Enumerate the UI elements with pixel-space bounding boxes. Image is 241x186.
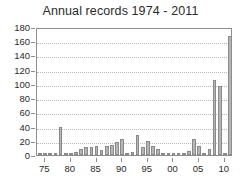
y-tick-mark-100 [31, 85, 35, 86]
y-tick-mark-120 [31, 71, 35, 72]
bar-2001 [177, 153, 181, 155]
bar-1979 [64, 153, 68, 155]
y-tick-mark-140 [31, 56, 35, 57]
bar-1977 [54, 153, 58, 155]
y-tick-mark-180 [31, 28, 35, 29]
bar-1984 [90, 147, 94, 155]
y-tick-mark-160 [31, 42, 35, 43]
chart-title: Annual records 1974 - 2011 [0, 4, 241, 18]
y-tick-label-140: 140 [14, 52, 30, 62]
bar-1987 [105, 146, 109, 155]
bar-1988 [110, 145, 114, 155]
bar-1994 [141, 147, 145, 155]
bar-2007 [208, 149, 212, 155]
y-tick-label-100: 100 [14, 80, 30, 90]
bar-1998 [161, 153, 165, 155]
y-tick-mark-40 [31, 128, 35, 129]
bar-2008 [213, 80, 217, 155]
y-axis: 020406080100120140160180 [0, 28, 34, 156]
bar-2005 [197, 146, 201, 155]
x-tick-mark-85 [96, 158, 97, 162]
bar-2006 [202, 153, 206, 155]
plot-area [36, 28, 232, 156]
bar-1999 [167, 153, 171, 155]
y-tick-label-60: 60 [19, 109, 30, 119]
bar-1991 [125, 153, 129, 155]
x-tick-mark-95 [147, 158, 148, 162]
y-tick-mark-80 [31, 99, 35, 100]
x-tick-label-05: 05 [193, 164, 204, 174]
bar-2009 [218, 86, 222, 155]
x-tick-mark-05 [198, 158, 199, 162]
x-tick-label-80: 80 [65, 164, 76, 174]
bar-series [37, 29, 231, 155]
bar-1993 [136, 135, 140, 155]
y-tick-label-180: 180 [14, 23, 30, 33]
bar-2011 [228, 36, 232, 155]
bar-1982 [79, 149, 83, 155]
x-tick-label-90: 90 [116, 164, 127, 174]
bar-2010 [223, 153, 227, 155]
bar-1992 [131, 152, 135, 155]
y-tick-mark-60 [31, 113, 35, 114]
x-tick-label-00: 00 [167, 164, 178, 174]
bar-1997 [156, 149, 160, 155]
x-tick-mark-00 [172, 158, 173, 162]
x-axis: 7580859095000510 [36, 158, 232, 180]
bar-1981 [74, 152, 78, 155]
bar-2003 [187, 151, 191, 155]
bar-1986 [100, 150, 104, 155]
bar-1976 [48, 153, 52, 155]
x-tick-label-75: 75 [39, 164, 50, 174]
bar-2004 [192, 139, 196, 155]
bar-1985 [95, 146, 99, 155]
bar-2000 [172, 153, 176, 155]
bar-1980 [69, 153, 73, 155]
chart-figure: Annual records 1974 - 2011 0204060801001… [0, 0, 241, 186]
y-tick-label-0: 0 [25, 151, 30, 161]
y-tick-label-80: 80 [19, 94, 30, 104]
x-tick-mark-90 [121, 158, 122, 162]
bar-1975 [43, 153, 47, 155]
y-tick-mark-0 [31, 156, 35, 157]
x-tick-mark-10 [224, 158, 225, 162]
x-tick-label-85: 85 [90, 164, 101, 174]
bar-1995 [146, 141, 150, 155]
x-tick-mark-80 [70, 158, 71, 162]
bar-1978 [59, 127, 63, 155]
y-tick-label-20: 20 [19, 137, 30, 147]
y-tick-label-120: 120 [14, 66, 30, 76]
bar-1983 [84, 147, 88, 155]
x-tick-label-10: 10 [218, 164, 229, 174]
x-tick-mark-75 [44, 158, 45, 162]
x-tick-label-95: 95 [142, 164, 153, 174]
bar-1989 [115, 142, 119, 156]
bar-1990 [120, 139, 124, 155]
bar-1996 [151, 146, 155, 155]
y-tick-mark-20 [31, 142, 35, 143]
y-tick-label-160: 160 [14, 37, 30, 47]
bar-1974 [38, 153, 42, 155]
bar-2002 [182, 153, 186, 155]
y-tick-label-40: 40 [19, 123, 30, 133]
